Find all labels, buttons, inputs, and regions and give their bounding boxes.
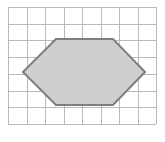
- figure-canvas: [0, 0, 165, 142]
- grid-figure-svg: [0, 0, 165, 142]
- hexagon-shape: [23, 39, 145, 105]
